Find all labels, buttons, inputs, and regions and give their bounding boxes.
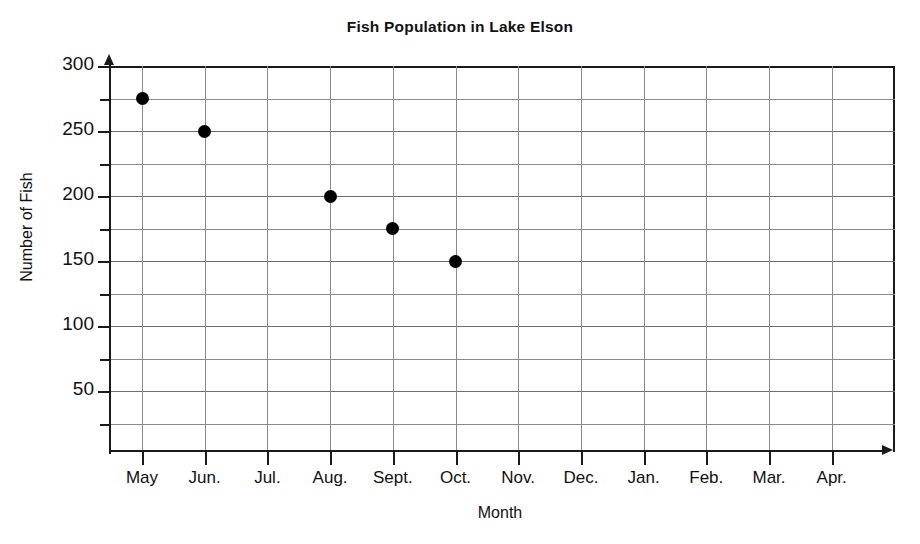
x-axis-tick: [142, 452, 144, 465]
gridline-horizontal: [111, 326, 895, 327]
y-axis-tick-major: [98, 66, 111, 68]
chart-title: Fish Population in Lake Elson: [0, 18, 920, 36]
gridline-horizontal: [111, 261, 895, 262]
x-axis-tick-label: Apr.: [787, 468, 877, 488]
y-axis-tick-minor: [100, 359, 111, 361]
plot-frame: [111, 66, 895, 452]
y-axis-tick-label: 150: [28, 248, 94, 270]
plot-area: [111, 66, 895, 452]
x-axis-tick: [267, 452, 269, 465]
gridline-vertical: [581, 66, 582, 452]
x-axis-tick: [205, 452, 207, 465]
gridline-horizontal: [111, 424, 895, 425]
gridline-vertical: [393, 66, 394, 452]
gridline-horizontal: [111, 196, 895, 197]
y-axis-tick-label: 200: [28, 183, 94, 205]
x-axis-tick: [456, 452, 458, 465]
gridline-vertical: [706, 66, 707, 452]
y-axis-tick-label: 50: [28, 378, 94, 400]
gridline-vertical: [644, 66, 645, 452]
x-axis-title: Month: [420, 504, 580, 522]
x-axis-tick: [393, 452, 395, 465]
y-axis-tick-minor: [100, 229, 111, 231]
gridline-horizontal: [111, 164, 895, 165]
gridline-vertical: [142, 66, 143, 452]
gridline-horizontal: [111, 229, 895, 230]
gridline-horizontal: [111, 99, 895, 100]
x-axis-tick: [832, 452, 834, 465]
gridline-horizontal: [111, 131, 895, 132]
data-point: [449, 255, 462, 268]
gridline-vertical: [267, 66, 268, 452]
y-axis-tick-minor: [100, 164, 111, 166]
y-axis-tick-major: [98, 196, 111, 198]
x-axis-tick: [644, 452, 646, 465]
gridline-vertical: [769, 66, 770, 452]
y-axis-tick-label: 100: [28, 313, 94, 335]
x-axis-tick: [330, 452, 332, 465]
y-axis-tick-major: [98, 261, 111, 263]
gridline-vertical: [330, 66, 331, 452]
gridline-vertical: [832, 66, 833, 452]
x-axis-arrowhead-icon: [882, 445, 893, 455]
x-axis-tick: [769, 452, 771, 465]
y-axis-tick-major: [98, 131, 111, 133]
gridline-vertical: [518, 66, 519, 452]
chart-page: Fish Population in Lake Elson Number of …: [0, 0, 920, 544]
y-axis-tick-minor: [100, 99, 111, 101]
gridline-vertical: [205, 66, 206, 452]
gridline-horizontal: [111, 359, 895, 360]
y-axis-arrowhead-icon: [104, 54, 114, 65]
gridline-horizontal: [111, 391, 895, 392]
y-axis-tick-major: [98, 391, 111, 393]
y-axis-tick-minor: [100, 294, 111, 296]
data-point: [324, 190, 337, 203]
y-axis-tick-label: 250: [28, 118, 94, 140]
x-axis-tick: [518, 452, 520, 465]
data-point: [198, 125, 211, 138]
y-axis-tick-minor: [100, 424, 111, 426]
gridline-horizontal: [111, 294, 895, 295]
y-axis-tick-label: 300: [28, 53, 94, 75]
data-point: [136, 92, 149, 105]
y-axis-title: Number of Fish: [18, 137, 36, 317]
y-axis-line: [109, 62, 111, 454]
x-axis-tick: [581, 452, 583, 465]
x-axis-tick: [706, 452, 708, 465]
y-axis-tick-major: [98, 326, 111, 328]
